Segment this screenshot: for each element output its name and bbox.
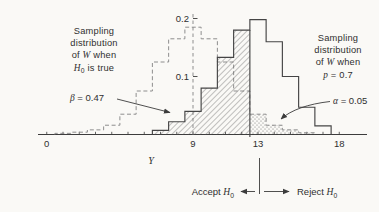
reject-h0-label: Reject H0 — [297, 186, 337, 199]
x-tick-label: 0 — [44, 138, 49, 149]
x-tick-label: 18 — [334, 138, 345, 149]
x-axis-label: Y — [148, 155, 155, 166]
rho-annotation-line2: distribution — [314, 45, 361, 55]
decision-indicator: Accept H0 Reject H0 — [192, 158, 338, 199]
rho-annotation-line3: of W when — [316, 57, 361, 67]
x-tick-label: 13 — [253, 138, 264, 149]
h0-annotation-line4: H0 is true — [73, 63, 114, 75]
beta-label: β = 0.47 — [69, 92, 104, 103]
h0-annotation-line2: distribution — [70, 38, 117, 48]
h0-annotation-line1: Sampling — [74, 26, 114, 36]
alpha-label: α = 0.05 — [333, 95, 367, 106]
y-tick-label: 0.2 — [176, 13, 189, 24]
rho-annotation-line4: p = 0.7 — [322, 70, 353, 80]
sampling-distributions-chart: 0913180.10.2 Sampling distribution of W … — [0, 0, 379, 212]
rho-annotation: Sampling distribution of W when p = 0.7 — [314, 33, 361, 80]
alpha-arrow — [281, 102, 330, 120]
h0-annotation-line3: of W when — [72, 50, 117, 60]
accept-h0-label: Accept H0 — [192, 186, 235, 199]
h0-annotation: Sampling distribution of W when H0 is tr… — [70, 26, 117, 74]
x-tick-label: 9 — [190, 138, 195, 149]
figure-container: 0913180.10.2 Sampling distribution of W … — [0, 0, 379, 212]
beta-arrow — [117, 99, 170, 113]
y-tick-label: 0.1 — [176, 71, 189, 82]
beta-accept-region — [152, 30, 250, 134]
rho-annotation-line1: Sampling — [318, 33, 358, 43]
